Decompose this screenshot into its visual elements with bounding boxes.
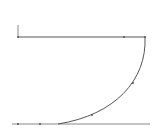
sketch-point[interactable] [132, 82, 134, 84]
sketch-point[interactable] [17, 123, 19, 125]
sketch-point[interactable] [17, 36, 19, 38]
sketch-point[interactable] [39, 123, 41, 125]
sketch-point[interactable] [123, 36, 125, 38]
sketch-point[interactable] [91, 114, 93, 116]
sketch-geometry [12, 25, 150, 125]
sketch-point[interactable] [144, 36, 146, 38]
sketch-canvas [0, 0, 163, 136]
curve-arc[interactable] [58, 37, 145, 124]
